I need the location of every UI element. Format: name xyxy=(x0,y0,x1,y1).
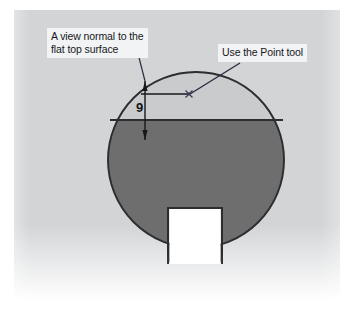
cad-figure-container: A view normal to theflat top surface Use… xyxy=(0,0,362,322)
dimension-value-label: 9 xyxy=(136,100,143,115)
callout-view-normal-line1: A view normal to the xyxy=(51,30,144,42)
keyway-mask xyxy=(168,208,222,264)
callout-view-normal-line2: flat top surface xyxy=(51,43,118,55)
callout-point-tool: Use the Point tool xyxy=(218,44,307,62)
callout-point-tool-label: Use the Point tool xyxy=(222,46,303,58)
callout-view-normal: A view normal to theflat top surface xyxy=(47,28,148,58)
